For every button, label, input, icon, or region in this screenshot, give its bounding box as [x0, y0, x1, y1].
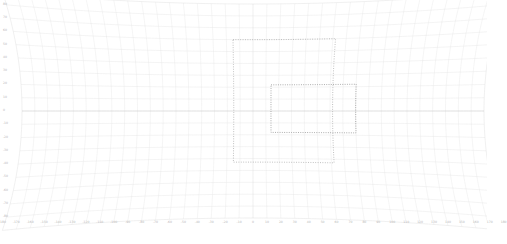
x-tick-label: -60: [167, 221, 172, 224]
x-tick-label: 180: [501, 221, 507, 224]
y-tick-label: 10: [3, 96, 7, 99]
x-tick-label: 30: [293, 221, 297, 224]
x-tick-label: 140: [445, 221, 451, 224]
x-tick-label: 130: [431, 221, 437, 224]
x-tick-label: -40: [195, 221, 200, 224]
y-tick-label: -80: [3, 216, 8, 219]
x-tick-label: 10: [265, 221, 269, 224]
x-tick-label: -140: [55, 221, 62, 224]
y-tick-label: 60: [3, 30, 7, 33]
y-tick-label: -40: [3, 163, 8, 166]
x-tick-label: -80: [139, 221, 144, 224]
y-tick-label: 40: [3, 56, 7, 59]
y-tick-label: 30: [3, 70, 7, 73]
x-tick-label: 170: [487, 221, 493, 224]
x-tick-label: -150: [41, 221, 48, 224]
x-tick-label: 90: [376, 221, 380, 224]
x-tick-label: -130: [68, 221, 75, 224]
x-tick-label: 110: [403, 221, 409, 224]
x-tick-label: 80: [362, 221, 366, 224]
y-tick-label: -10: [3, 123, 8, 126]
x-tick-label: -20: [223, 221, 228, 224]
x-tick-label: -10: [237, 221, 242, 224]
x-tick-label: -30: [209, 221, 214, 224]
x-tick-label: 0: [252, 221, 254, 224]
inner-region-boundary: [271, 84, 356, 133]
x-tick-label: 100: [389, 221, 395, 224]
x-tick-label: -170: [13, 221, 20, 224]
x-tick-label: 160: [473, 221, 479, 224]
y-tick-label: -70: [3, 202, 8, 205]
x-tick-label: -70: [153, 221, 158, 224]
y-tick-label: 50: [3, 43, 7, 46]
x-tick-label: -120: [82, 221, 89, 224]
y-tick-label: -60: [3, 189, 8, 192]
y-tick-label: -50: [3, 176, 8, 179]
x-tick-label: 120: [417, 221, 423, 224]
x-tick-label: 60: [335, 221, 339, 224]
y-tick-label: 0: [3, 109, 5, 112]
x-tick-label: -180: [0, 221, 6, 224]
x-tick-label: 50: [321, 221, 325, 224]
x-tick-label: -160: [27, 221, 34, 224]
x-tick-label: 40: [307, 221, 311, 224]
x-tick-label: -50: [181, 221, 186, 224]
x-tick-label: -110: [96, 221, 103, 224]
y-tick-label: 80: [3, 3, 7, 6]
outer-region-boundary: [233, 39, 336, 163]
meridians-group: [2, 0, 487, 230]
x-tick-label: 70: [349, 221, 353, 224]
x-tick-label: 150: [459, 221, 465, 224]
y-tick-label: 70: [3, 17, 7, 20]
y-tick-label: 20: [3, 83, 7, 86]
x-tick-label: 20: [279, 221, 283, 224]
y-tick-label: -20: [3, 136, 8, 139]
x-tick-label: -90: [125, 221, 130, 224]
x-tick-label: -100: [110, 221, 117, 224]
y-tick-label: -30: [3, 149, 8, 152]
